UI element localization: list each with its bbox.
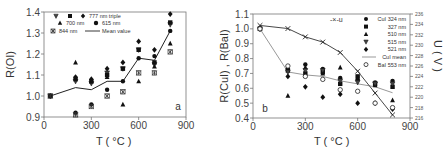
- x-marker: [355, 69, 360, 74]
- x-tick-label: 900: [178, 120, 195, 131]
- triangle-up-marker: [136, 79, 141, 84]
- open-circle-marker: [321, 77, 325, 81]
- legend-item: 777 nm triple: [89, 13, 121, 19]
- right-y-tick-label: 218: [415, 105, 424, 111]
- square-marker: [168, 20, 172, 24]
- triangle-up-marker: [364, 32, 368, 36]
- x-tick-label: 0: [41, 120, 47, 131]
- circle-marker: [121, 79, 125, 83]
- legend-item: Mean value: [102, 28, 130, 34]
- square-marker: [152, 60, 156, 64]
- x-marker: [320, 40, 325, 45]
- diamond-marker: [320, 94, 325, 100]
- square-marker: [121, 67, 125, 71]
- circle-marker: [94, 21, 98, 25]
- x-marker: [338, 50, 343, 55]
- triangle-down-marker: [364, 40, 368, 44]
- diamond-marker: [303, 84, 308, 90]
- panel-a-label: a: [175, 101, 181, 112]
- open-circle-marker: [258, 27, 262, 31]
- panel-b-ylabel: R(CuI) , R(BaI): [218, 29, 230, 102]
- circle-marker: [168, 29, 172, 33]
- panel-b-xlabel: T ( °C ): [314, 135, 349, 147]
- right-y-tick-label: 224: [415, 73, 424, 79]
- diamond-marker: [120, 60, 125, 66]
- diamond-marker: [355, 100, 360, 106]
- open-circle-marker: [373, 101, 377, 105]
- y-tick-label: 1.2: [26, 49, 40, 60]
- legend-item: 327 nm: [388, 24, 407, 30]
- y-tick-label: 1.4: [26, 7, 40, 18]
- legend-item: BaI 553 nm: [378, 62, 407, 68]
- y-tick-label: 0.8: [235, 53, 249, 64]
- diamond-marker: [81, 13, 85, 18]
- panel-b-right-ylabel: U ( V ): [432, 40, 443, 72]
- right-y-tick-label: 220: [415, 94, 424, 100]
- y-tick-label: 1.0: [235, 23, 249, 34]
- legend-item: 700 nm: [66, 20, 85, 26]
- legend-item: CuI 324 nm: [378, 16, 407, 22]
- panel-a-ylabel: R(OI): [4, 51, 16, 78]
- diamond-marker: [136, 39, 141, 45]
- open-circle-marker: [390, 105, 394, 109]
- y-tick-label: 1.1: [235, 9, 249, 20]
- circle-marker: [152, 54, 156, 58]
- legend-item: 521 nm: [388, 46, 407, 52]
- x-tick-label: 0: [250, 121, 256, 132]
- triangle-up-marker: [58, 21, 62, 25]
- legend-item: 844 nm: [59, 28, 78, 34]
- y-tick-label: 0.7: [235, 68, 249, 79]
- x-tick-label: 300: [83, 120, 100, 131]
- right-y-tick-label: 236: [415, 11, 424, 17]
- triangle-up-marker: [120, 102, 125, 107]
- asterisk-icon: [121, 90, 125, 94]
- right-y-tick-label: 232: [415, 32, 424, 38]
- square-marker: [364, 25, 368, 29]
- open-circle-marker: [364, 63, 368, 67]
- diamond-marker: [152, 47, 157, 53]
- right-y-tick-label: 234: [415, 21, 424, 27]
- x-marker: [390, 112, 395, 117]
- right-y-tick-label: 216: [415, 115, 424, 121]
- triangle-up-marker: [285, 93, 290, 98]
- chart-canvas: 03006009000.91.01.11.21.31.4R(OI)a777 nm…: [0, 0, 443, 155]
- y-tick-label: 0.4: [235, 113, 249, 124]
- diamond-marker: [285, 74, 290, 80]
- circle-marker: [105, 88, 109, 92]
- open-circle-marker: [338, 88, 342, 92]
- square-marker: [68, 14, 72, 18]
- cui-mean-line: [260, 29, 393, 93]
- x-tick-label: 600: [349, 121, 366, 132]
- voltage-line: [260, 25, 393, 114]
- x-tick-label: 300: [297, 121, 314, 132]
- y-tick-label: 1.1: [26, 70, 40, 81]
- legend-item: 510 nm: [388, 31, 407, 37]
- diamond-marker: [364, 47, 368, 52]
- open-circle-marker: [286, 64, 290, 68]
- y-tick-label: 1.0: [26, 91, 40, 102]
- square-marker: [136, 48, 140, 52]
- legend-item: 515 nm: [388, 39, 407, 45]
- legend-u: -×-u: [330, 16, 343, 23]
- asterisk-icon: [105, 94, 109, 98]
- y-tick-label: 0.6: [235, 83, 249, 94]
- triangle-down-marker: [54, 14, 58, 18]
- y-tick-label: 0.5: [235, 98, 249, 109]
- triangle-up-marker: [73, 60, 78, 65]
- y-tick-label: 0.9: [235, 38, 249, 49]
- y-tick-label: 1.3: [26, 28, 40, 39]
- x-marker: [303, 34, 308, 39]
- asterisk-icon: [152, 71, 156, 75]
- asterisk-icon: [73, 113, 77, 117]
- right-y-tick-label: 222: [415, 84, 424, 90]
- legend-item: 615 nm: [102, 20, 121, 26]
- triangle-up-marker: [152, 64, 157, 69]
- triangle-up-marker: [168, 41, 173, 46]
- legend-b: [362, 17, 376, 67]
- asterisk-icon: [89, 104, 93, 108]
- y-tick-label: 0.9: [26, 112, 40, 123]
- asterisk-icon: [168, 50, 172, 54]
- right-y-tick-label: 228: [415, 53, 424, 59]
- triangle-up-marker: [338, 65, 343, 70]
- right-y-tick-label: 226: [415, 63, 424, 69]
